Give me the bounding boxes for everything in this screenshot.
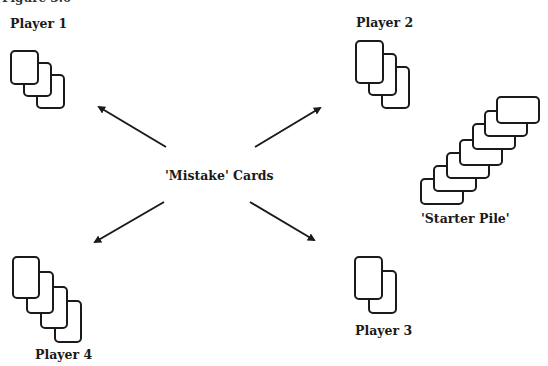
arrow-to-player-4 [95, 202, 164, 242]
card [354, 256, 383, 300]
arrow-to-player-3 [250, 202, 314, 240]
arrows [0, 0, 548, 366]
arrow-to-player-2 [255, 108, 320, 147]
player-3-label: Player 3 [355, 325, 412, 338]
arrow-to-player-1 [99, 107, 166, 147]
player-4-label: Player 4 [35, 349, 92, 362]
card [12, 256, 40, 299]
